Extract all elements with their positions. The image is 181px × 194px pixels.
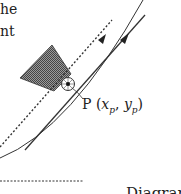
point-label: P (xp, yp) <box>82 96 143 115</box>
diagram: he nt P (xp, yp) Diagram 2 <box>0 0 181 194</box>
point-name: P <box>82 96 91 112</box>
coord-y: y <box>124 96 132 112</box>
text-fragment: he <box>0 1 17 17</box>
coord-sep: , <box>115 96 124 112</box>
text-fragment: nt <box>0 23 15 39</box>
dotted-trajectory <box>0 20 112 147</box>
paren-close: ) <box>138 96 143 112</box>
diagram-caption: Diagram 2 <box>126 184 181 194</box>
dotted-arrowhead-icon <box>98 34 106 44</box>
